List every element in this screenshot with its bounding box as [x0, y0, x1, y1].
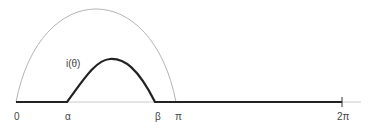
tick-label-beta: β — [155, 112, 161, 122]
diagram-canvas — [0, 0, 390, 131]
tick-label-two-pi: 2π — [337, 112, 349, 122]
tick-label-alpha: α — [65, 112, 71, 122]
current-curve — [16, 59, 342, 102]
curve-label: i(θ) — [66, 59, 80, 69]
sine-arc — [16, 9, 176, 102]
tick-label-zero: 0 — [14, 112, 20, 122]
tick-label-pi: π — [175, 112, 182, 122]
